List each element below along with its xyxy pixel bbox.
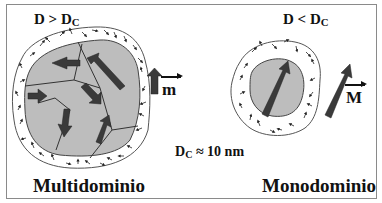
monodomain-condition-label: D < DC: [283, 11, 329, 28]
monodomain-caption: Monodominio: [262, 175, 376, 197]
critical-diameter-label: DC ≈ 10 nm: [175, 144, 244, 160]
multidomain-caption: Multidominio: [33, 175, 145, 197]
vector-M-label: M: [346, 88, 362, 108]
vector-m-label: m: [162, 80, 176, 100]
vector-arrow-icon: [345, 84, 365, 86]
multidomain-condition-label: D > DC: [34, 11, 80, 28]
vector-arrow-icon: [161, 76, 181, 78]
diagram-artwork: [0, 0, 382, 203]
